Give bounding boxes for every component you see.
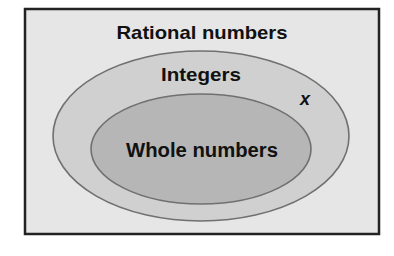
venn-diagram: Rational numbers Integers x Whole number… (0, 0, 394, 256)
integers-label: Integers (161, 64, 241, 85)
whole-numbers-label: Whole numbers (126, 139, 278, 161)
rational-numbers-label: Rational numbers (117, 22, 288, 43)
point-x-label: x (299, 89, 311, 109)
